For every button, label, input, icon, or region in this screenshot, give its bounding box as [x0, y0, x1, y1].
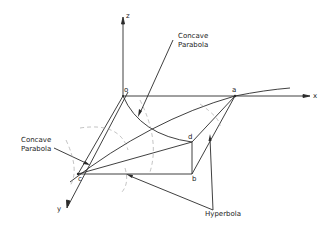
concave-parabola-left-line2: Parabola — [21, 145, 51, 153]
concave-parabola-top-line2: Parabola — [178, 41, 208, 49]
leader-hyperbola-2 — [130, 176, 213, 210]
point-a-dot — [234, 95, 236, 97]
hyperbolic-paraboloid-diagram — [0, 0, 324, 230]
edge-c-d — [78, 142, 192, 174]
concave-parabola-o-d — [123, 96, 192, 142]
dashed-arc-bottom — [120, 168, 127, 194]
y-axis — [68, 92, 128, 206]
point-a-label: a — [232, 87, 236, 94]
x-arrow-icon — [303, 95, 310, 98]
y-axis-label: y — [57, 205, 61, 213]
z-arrow-icon — [122, 17, 125, 24]
hyperbola-c-a — [70, 88, 290, 182]
concave-parabola-top-line1: Concave — [178, 32, 208, 40]
x-axis-label: x — [313, 92, 317, 100]
leader-concave-parabola-top — [140, 40, 173, 113]
z-axis-label: z — [126, 12, 130, 20]
point-b-label: b — [192, 176, 196, 183]
point-o-label: o — [124, 87, 128, 94]
point-c-label: c — [78, 176, 82, 183]
leader-arrow-icon — [209, 134, 212, 141]
point-d-label: d — [188, 134, 192, 141]
point-o-dot — [122, 95, 124, 97]
leader-hyperbola-1 — [210, 138, 213, 210]
leader-concave-parabola-left — [54, 148, 88, 164]
hyperbola-label: Hyperbola — [205, 210, 241, 218]
leader-arrow-icon — [126, 174, 133, 178]
dashed-arc-middle — [140, 100, 153, 172]
concave-parabola-left-line1: Concave — [21, 136, 51, 144]
dashed-arc-left-lower — [66, 140, 74, 186]
